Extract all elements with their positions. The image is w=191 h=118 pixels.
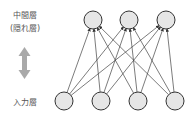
hidden-node [84, 11, 102, 29]
input-node [129, 92, 147, 110]
nodes [55, 11, 184, 110]
network-diagram [0, 0, 191, 118]
connection-edge [167, 29, 174, 92]
input-node [166, 92, 184, 110]
hidden-node [157, 11, 175, 29]
connections [67, 26, 174, 96]
connection-edge [94, 29, 100, 92]
double-arrow-icon [19, 47, 31, 79]
connection-edge [130, 29, 137, 92]
connection-edge [104, 29, 126, 93]
connection-edge [99, 26, 168, 94]
input-node [55, 92, 73, 110]
hidden-node [120, 11, 138, 29]
input-node [92, 92, 110, 110]
